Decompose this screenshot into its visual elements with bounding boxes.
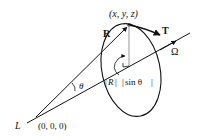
point-label: (x, y, z) <box>109 8 139 20</box>
r-label: R <box>103 28 111 39</box>
rotation-diagram: (x, y, z) R T Ω θ | R | | sin θ | L (0, … <box>0 0 198 140</box>
abs-bar-right: | <box>115 77 117 87</box>
theta-arc-icon <box>72 83 75 91</box>
origin-coords-label: (0, 0, 0) <box>38 121 67 131</box>
r-vector <box>36 27 127 117</box>
theta-label: θ <box>79 81 84 91</box>
right-angle-icon <box>123 63 129 67</box>
t-label: T <box>162 25 169 36</box>
abs-bar-left: | <box>105 77 107 87</box>
omega-label: Ω <box>171 46 178 57</box>
radius-sin-label: sin θ <box>125 77 142 87</box>
origin-letter-label: L <box>14 120 21 131</box>
abs-bar-right-2: | <box>151 77 153 87</box>
radius-r-label: R <box>107 77 114 87</box>
abs-bar-left-2: | <box>122 77 124 87</box>
